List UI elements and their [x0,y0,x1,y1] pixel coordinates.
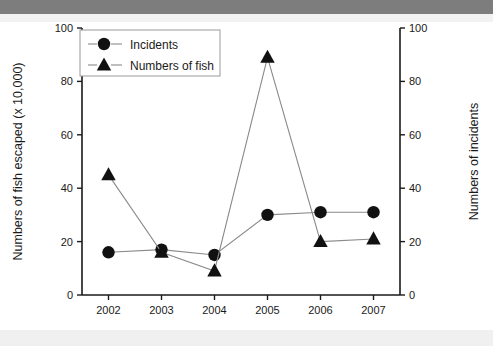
right-tick-label: 80 [409,75,421,87]
series-2 [101,50,380,277]
x-axis: 200220032004200520062007 [82,295,400,316]
series-1 [102,206,379,261]
right-tick-label: 40 [409,182,421,194]
x-tick-label: 2004 [202,304,226,316]
bottom-gray-band [0,330,493,346]
data-point-circle [314,206,326,218]
data-point-circle [261,209,273,221]
legend-label: Incidents [130,38,178,52]
right-tick-label: 0 [409,289,415,301]
right-axis-ticks: 020406080100 [400,22,427,301]
data-point-circle [367,206,379,218]
left-tick-label: 40 [61,182,73,194]
left-axis: 020406080100 Numbers of fish escaped (x … [11,22,82,301]
series-line [109,57,374,271]
x-axis-ticks: 200220032004200520062007 [96,295,385,316]
left-tick-label: 0 [67,289,73,301]
left-axis-ticks: 020406080100 [55,22,82,301]
left-tick-label: 60 [61,129,73,141]
left-tick-label: 100 [55,22,73,34]
data-point-triangle [260,50,274,63]
top-soft-band [0,14,493,22]
legend-label: Numbers of fish [130,59,214,73]
right-tick-label: 20 [409,236,421,248]
x-tick-label: 2003 [149,304,173,316]
x-tick-label: 2005 [255,304,279,316]
legend-marker-circle [98,38,110,50]
data-point-triangle [313,234,327,247]
top-gray-band [0,0,493,14]
data-point-circle [102,246,114,258]
chart-legend: IncidentsNumbers of fish [80,30,220,76]
series-layer [101,50,380,277]
right-tick-label: 60 [409,129,421,141]
right-tick-label: 100 [409,22,427,34]
left-tick-label: 80 [61,75,73,87]
x-tick-label: 2006 [308,304,332,316]
x-tick-label: 2007 [361,304,385,316]
right-axis: 020406080100 Numbers of incidents [400,22,481,301]
left-tick-label: 20 [61,236,73,248]
data-point-triangle [366,231,380,244]
x-tick-label: 2002 [96,304,120,316]
data-point-triangle [207,263,221,276]
right-axis-title: Numbers of incidents [467,103,481,220]
data-point-triangle [101,167,115,180]
left-axis-title: Numbers of fish escaped (x 10,000) [11,62,25,260]
dual-axis-line-chart: 020406080100 Numbers of fish escaped (x … [0,22,493,330]
chart-figure: 020406080100 Numbers of fish escaped (x … [0,22,493,330]
